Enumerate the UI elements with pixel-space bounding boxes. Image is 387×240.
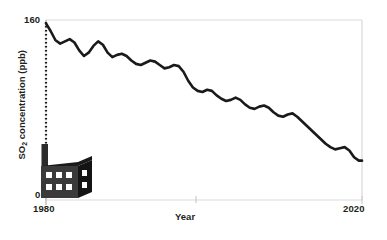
factory-side <box>78 160 92 198</box>
y-axis-title-prefix: SO <box>16 146 27 160</box>
x-axis-tick-label-right: 2020 <box>343 204 365 214</box>
y-axis-tick-label-top: 160 <box>24 15 40 25</box>
smokestack-icon <box>42 144 49 168</box>
chart-figure: 160 0 1980 2020 Year SO2 concentration (… <box>0 0 387 240</box>
x-axis-title: Year <box>175 212 195 222</box>
y-axis-title-subscript: 2 <box>21 142 28 146</box>
y-axis-title-suffix: concentration (ppb) <box>16 50 27 142</box>
y-axis-title: SO2 concentration (ppb) <box>17 40 27 170</box>
factory-body <box>41 166 78 198</box>
so2-concentration-line <box>46 23 362 160</box>
x-axis-tick-label-left: 1980 <box>33 204 55 214</box>
factory-icon <box>41 144 92 198</box>
y-axis-tick-label-bottom: 0 <box>35 190 40 200</box>
chart-canvas <box>0 0 387 240</box>
